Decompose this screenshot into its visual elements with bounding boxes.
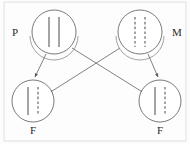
arrow-p-to-f-right bbox=[72, 48, 144, 93]
cell-label-offspring-right: F bbox=[157, 124, 163, 136]
inheritance-arrows bbox=[35, 48, 158, 93]
cell-paternal: P bbox=[12, 10, 78, 60]
cell-offspring-left: F bbox=[12, 80, 54, 136]
cell-offspring-right-membrane bbox=[139, 80, 181, 122]
cell-paternal-membrane bbox=[32, 10, 76, 54]
cell-label-offspring-left: F bbox=[30, 124, 36, 136]
arrow-m-to-f-left bbox=[49, 48, 120, 93]
cell-label-paternal: P bbox=[12, 26, 18, 38]
arrow-p-to-f-left bbox=[35, 54, 46, 77]
cell-maternal: M bbox=[116, 10, 182, 60]
cell-offspring-right: F bbox=[139, 80, 181, 136]
cell-offspring-left-membrane bbox=[12, 80, 54, 122]
arrow-m-to-f-right bbox=[148, 54, 158, 77]
figure-canvas: P M F F bbox=[0, 0, 190, 144]
cell-maternal-membrane bbox=[118, 10, 162, 54]
cell-label-maternal: M bbox=[172, 26, 182, 38]
inheritance-diagram: P M F F bbox=[0, 0, 190, 144]
